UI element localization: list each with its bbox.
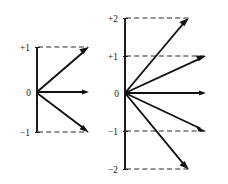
figure-root: +1 0 −1: [0, 0, 228, 184]
right-axis-label-plus-2: +2: [108, 14, 118, 24]
right-axis-label-zero: 0: [114, 89, 119, 99]
figure-canvas: +1 0 −1: [0, 0, 228, 184]
left-panel-three-levels: +1 0 −1: [20, 43, 89, 138]
right-vector-zero: [126, 90, 206, 95]
right-axis-label-minus-1: −1: [108, 127, 118, 137]
right-panel-five-levels: +2 +1 0 −1 −2: [108, 14, 206, 175]
right-vector-minus-1: [125, 93, 206, 132]
left-axis-label-zero: 0: [26, 88, 31, 98]
left-axis-label-plus-1: +1: [20, 43, 30, 53]
right-arrowhead-minus-2: [179, 161, 189, 170]
right-arrowhead-plus-2: [179, 18, 189, 26]
left-vector-up: [37, 47, 89, 92]
left-vector-flat: [38, 89, 89, 94]
left-arrowhead-flat: [82, 89, 89, 94]
right-vector-plus-1: [125, 56, 206, 93]
right-axis-label-plus-1: +1: [108, 52, 118, 62]
right-axis-label-minus-2: −2: [108, 165, 118, 175]
right-arrowhead-zero: [199, 90, 206, 95]
left-axis-label-minus-1: −1: [20, 128, 30, 138]
left-vector-down: [37, 93, 89, 133]
left-arrowhead-up: [79, 47, 89, 54]
